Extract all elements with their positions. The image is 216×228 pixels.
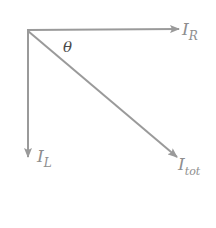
label-i-tot: Itot [177,154,201,178]
label-i-r-subscript: R [188,29,198,43]
label-i-l-subscript: L [43,156,52,170]
angle-theta-label: θ [63,38,72,56]
vector-i-r-arrow [27,29,179,30]
label-i-r: IR [181,19,198,43]
vector-i-tot-arrow [28,31,177,157]
label-i-l: IL [36,146,52,170]
phasor-diagram: θ IR IL Itot [0,0,216,228]
label-i-tot-subscript: tot [185,165,201,178]
